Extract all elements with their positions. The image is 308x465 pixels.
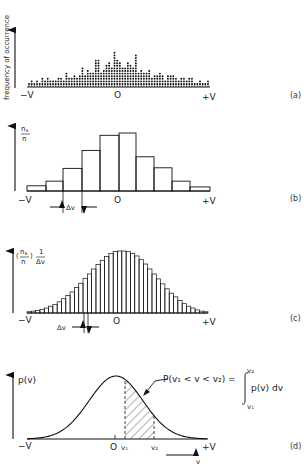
panel-c-x-mid: O bbox=[113, 316, 120, 326]
panel-c: ( nx n ) 1 Δv −V O +V Δv (c) bbox=[13, 248, 301, 333]
panel-c-delta: Δv bbox=[57, 324, 66, 332]
panel-c-factor-num: 1 bbox=[39, 248, 43, 256]
dot-columns bbox=[28, 52, 209, 87]
panel-d-ylabel: p(v) bbox=[18, 375, 36, 385]
panel-d-x-right: +V bbox=[202, 442, 217, 452]
histogram-bars bbox=[27, 133, 210, 191]
figure-canvas: frequency of occurrence −V O +V (a) nx n… bbox=[0, 0, 308, 465]
integral-upper: v₂ bbox=[247, 367, 254, 375]
panel-a-x-left: −V bbox=[20, 90, 35, 100]
panel-d-v2: v₂ bbox=[151, 444, 158, 452]
panel-b-ylabel-num: nx bbox=[21, 125, 28, 133]
panel-a-ylabel: frequency of occurrence bbox=[3, 15, 11, 100]
integrand: p(v) dv bbox=[251, 383, 284, 393]
panel-b-x-right: +V bbox=[202, 196, 217, 206]
panel-c-ylabel-den: n bbox=[21, 258, 25, 266]
integral-sign-icon bbox=[242, 373, 248, 404]
panel-c-x-left: −V bbox=[18, 315, 33, 325]
integral-lower: v₁ bbox=[247, 403, 254, 411]
fine-histogram-bars bbox=[27, 251, 208, 313]
panel-c-factor-den: Δv bbox=[36, 258, 45, 266]
panel-b: nx n −V O +V Δv (b) bbox=[15, 125, 301, 213]
panel-a-x-mid: O bbox=[114, 90, 121, 100]
panel-d-axis-var: v bbox=[196, 458, 200, 465]
panel-c-ylabel-num: nx bbox=[20, 248, 27, 256]
pointer-arrow-icon bbox=[143, 389, 150, 396]
density-curve bbox=[27, 376, 207, 439]
panel-d-tag: (d) bbox=[290, 442, 301, 451]
panel-c-tag: (c) bbox=[290, 314, 301, 323]
panel-b-x-left: −V bbox=[18, 195, 33, 205]
svg-text:): ) bbox=[30, 252, 33, 260]
panel-a-tag: (a) bbox=[290, 91, 301, 100]
probability-expression: P(v₁ < v < v₂) = bbox=[163, 374, 236, 384]
panel-a-x-right: +V bbox=[202, 92, 217, 102]
svg-text:(: ( bbox=[16, 252, 19, 260]
panel-d: p(v) −V O v₁ v₂ +V v P(v₁ < v < v₂) = v₂… bbox=[13, 367, 301, 465]
panel-b-tag: (b) bbox=[290, 194, 301, 203]
panel-b-ylabel-den: n bbox=[22, 135, 26, 143]
panel-b-delta: Δv bbox=[66, 204, 75, 212]
panel-d-v1: v₁ bbox=[121, 444, 128, 452]
panel-c-x-right: +V bbox=[202, 317, 217, 327]
panel-d-x-left: −V bbox=[18, 441, 33, 451]
panel-a: frequency of occurrence −V O +V (a) bbox=[3, 15, 301, 102]
panel-b-x-mid: O bbox=[114, 195, 121, 205]
panel-d-x-mid: O bbox=[110, 442, 117, 452]
